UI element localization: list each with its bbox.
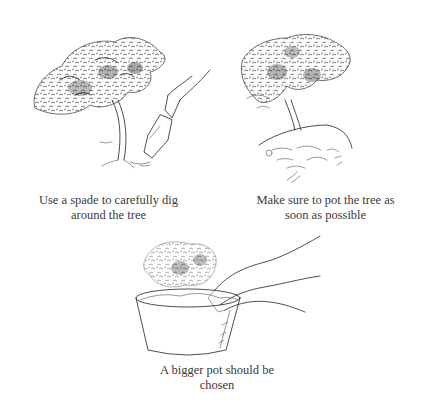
caption-bigger-pot-line2: chosen — [100, 378, 334, 393]
hand-placing-tree-in-pot-icon — [100, 230, 334, 360]
tree-with-spade-icon — [0, 0, 217, 190]
caption-pot-soon-line2: soon as possible — [217, 208, 434, 223]
panel-dig: Use a spade to carefully dig around the … — [0, 0, 217, 240]
caption-dig-line2: around the tree — [0, 208, 217, 223]
tree-on-soil-mound-icon — [217, 0, 434, 190]
panel-bigger-pot: A bigger pot should be chosen — [100, 230, 334, 417]
caption-pot-soon-line1: Make sure to pot the tree as — [217, 193, 434, 208]
caption-dig: Use a spade to carefully dig around the … — [0, 193, 217, 223]
caption-dig-line1: Use a spade to carefully dig — [0, 193, 217, 208]
panel-pot-soon: Make sure to pot the tree as soon as pos… — [217, 0, 434, 240]
caption-bigger-pot-line1: A bigger pot should be — [100, 363, 334, 378]
caption-pot-soon: Make sure to pot the tree as soon as pos… — [217, 193, 434, 223]
caption-bigger-pot: A bigger pot should be chosen — [100, 363, 334, 393]
